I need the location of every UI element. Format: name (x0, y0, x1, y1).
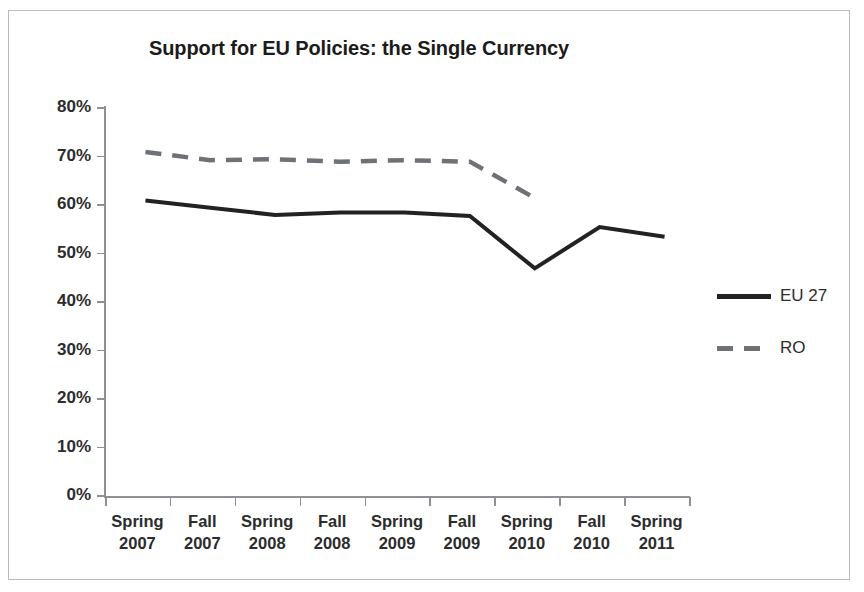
x-axis-label: Fall2009 (426, 511, 498, 555)
x-axis-label-line: Spring (361, 511, 433, 533)
x-axis-tick (105, 497, 107, 506)
y-axis-tick (97, 107, 105, 109)
x-axis-tick (300, 497, 302, 506)
x-axis-label-line: Spring (491, 511, 563, 533)
x-axis-tick (624, 497, 626, 506)
x-axis-label-line: Fall (426, 511, 498, 533)
y-axis-label: 50% (23, 243, 91, 263)
x-axis-label-line: 2007 (166, 533, 238, 555)
x-axis-line (104, 496, 690, 498)
series-line-ro (145, 152, 534, 198)
x-axis-tick (235, 497, 237, 506)
legend-label: EU 27 (780, 286, 827, 306)
y-axis-tick (97, 447, 105, 449)
x-axis-tick (559, 497, 561, 506)
figure-frame: Support for EU Policies: the Single Curr… (8, 10, 850, 580)
x-axis-label: Spring2008 (231, 511, 303, 555)
x-axis-label: Fall2008 (296, 511, 368, 555)
chart-title: Support for EU Policies: the Single Curr… (9, 37, 709, 60)
y-axis-tick (97, 398, 105, 400)
x-axis-label: Spring2010 (491, 511, 563, 555)
y-axis-label: 20% (23, 388, 91, 408)
y-axis-label: 80% (23, 97, 91, 117)
x-axis-label-line: Fall (166, 511, 238, 533)
x-axis-label-line: Spring (231, 511, 303, 533)
chart-legend: EU 27RO (717, 283, 857, 387)
y-axis-label: 40% (23, 291, 91, 311)
y-axis-tick (97, 156, 105, 158)
x-axis-label-line: 2008 (231, 533, 303, 555)
x-axis-label-line: Spring (101, 511, 173, 533)
x-axis-label: Fall2007 (166, 511, 238, 555)
x-axis-label-line: Spring (621, 511, 693, 533)
y-axis-tick (97, 253, 105, 255)
x-axis-label: Spring2009 (361, 511, 433, 555)
x-axis-label-line: 2011 (621, 533, 693, 555)
x-axis-label: Spring2011 (621, 511, 693, 555)
series-line-eu-27 (145, 200, 664, 268)
x-axis-tick (365, 497, 367, 506)
x-axis-label: Spring2007 (101, 511, 173, 555)
x-axis-label: Fall2010 (556, 511, 628, 555)
x-axis-tick (494, 497, 496, 506)
x-axis-label-line: 2010 (491, 533, 563, 555)
x-axis-label-line: 2007 (101, 533, 173, 555)
legend-item-eu-27[interactable]: EU 27 (717, 283, 857, 309)
y-axis-label: 30% (23, 340, 91, 360)
y-axis-label: 10% (23, 437, 91, 457)
legend-item-ro[interactable]: RO (717, 335, 857, 361)
y-axis-label: 60% (23, 194, 91, 214)
x-axis-label-line: 2009 (361, 533, 433, 555)
y-axis-tick (97, 301, 105, 303)
x-axis-label-line: Fall (556, 511, 628, 533)
y-axis-tick (97, 350, 105, 352)
x-axis-label-line: 2009 (426, 533, 498, 555)
x-axis-tick (170, 497, 172, 506)
legend-swatch-dashed-icon (717, 341, 771, 355)
y-axis-tick (97, 204, 105, 206)
y-axis-label: 70% (23, 146, 91, 166)
y-axis-tick (97, 495, 105, 497)
legend-swatch-solid-icon (717, 289, 771, 303)
x-axis-label-line: 2010 (556, 533, 628, 555)
x-axis-label-line: 2008 (296, 533, 368, 555)
legend-label: RO (780, 338, 806, 358)
x-axis-label-line: Fall (296, 511, 368, 533)
y-axis-label: 0% (23, 485, 91, 505)
x-axis-tick (429, 497, 431, 506)
x-axis-tick (689, 497, 691, 506)
